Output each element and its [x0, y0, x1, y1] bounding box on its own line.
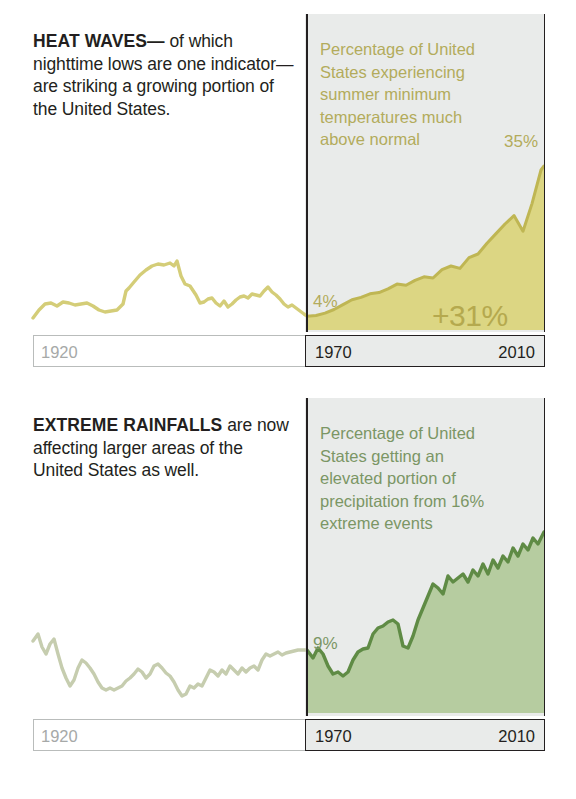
value-label-end-heat: 35%	[504, 133, 538, 150]
axis-tick-1970-rain: 1970	[315, 726, 352, 746]
rain-line-left	[33, 634, 307, 696]
infographic-page: HEAT WAVES— of which nighttime lows are …	[0, 0, 576, 799]
axis-strip-rain: 1920 1970 2010	[33, 719, 545, 751]
axis-tick-1920-heat: 1920	[41, 342, 78, 362]
chart-rain-svg	[0, 398, 576, 738]
axis-tick-1970-heat: 1970	[315, 342, 352, 362]
chart-heat-waves	[0, 14, 576, 344]
heat-line-left	[33, 261, 307, 318]
axis-tick-2010-heat: 2010	[498, 342, 535, 362]
delta-label-heat: +31%	[432, 301, 508, 331]
axis-tick-1920-rain: 1920	[41, 726, 78, 746]
section-heat-waves: HEAT WAVES— of which nighttime lows are …	[0, 14, 576, 374]
value-label-start-rain: 9%	[313, 635, 338, 652]
divider-right-rain	[544, 398, 546, 716]
axis-tick-2010-rain: 2010	[498, 726, 535, 746]
axis-strip-heat: 1920 1970 2010	[33, 335, 545, 367]
divider-1970-rain	[306, 398, 308, 716]
section-extreme-rainfalls: EXTREME RAINFALLS are now affecting larg…	[0, 398, 576, 770]
divider-right-heat	[544, 14, 546, 332]
divider-1970-heat	[306, 14, 308, 332]
chart-extreme-rainfalls	[0, 398, 576, 728]
value-label-start-heat: 4%	[313, 293, 338, 310]
